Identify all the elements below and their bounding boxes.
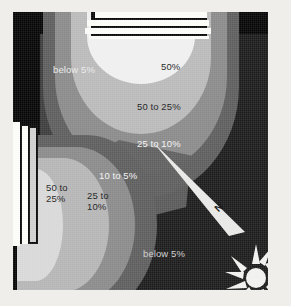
top-window-glazing-bar bbox=[87, 20, 209, 26]
daylight-factor-figure: N bbox=[0, 0, 291, 306]
plan-plot-area: N bbox=[13, 12, 268, 290]
top-window-glazing-bar bbox=[85, 28, 211, 34]
top-window bbox=[91, 12, 207, 39]
label-below-5-upper-left: below 5% bbox=[53, 64, 95, 75]
label-25-to-10: 25 to 10% bbox=[137, 138, 181, 149]
top-window-glazing-bar bbox=[95, 12, 207, 18]
label-below-5-bottom: below 5% bbox=[143, 248, 185, 259]
left-window-glazing-bar bbox=[30, 128, 36, 242]
label-left-50-to-25: 50 to 25% bbox=[46, 182, 68, 204]
label-10-to-5: 10 to 5% bbox=[99, 170, 137, 181]
label-50: 50% bbox=[161, 61, 180, 72]
north-arrow: N bbox=[151, 140, 261, 250]
top-window-glazing-bar bbox=[89, 36, 209, 39]
left-window-glazing-bar bbox=[13, 122, 20, 246]
sun-symbol bbox=[225, 244, 268, 290]
left-window bbox=[13, 124, 38, 244]
left-window-glazing-bar bbox=[22, 126, 28, 244]
label-50-to-25: 50 to 25% bbox=[137, 101, 181, 112]
label-left-25-to-10: 25 to 10% bbox=[87, 190, 109, 212]
